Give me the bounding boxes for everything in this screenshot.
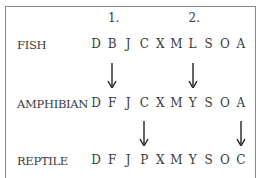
sequence-letter: C: [137, 37, 151, 51]
sequence-letter: J: [121, 37, 135, 51]
sequence-letter: M: [170, 153, 184, 167]
step-number: 2.: [189, 11, 200, 25]
sequence-letter: X: [153, 153, 167, 167]
sequence-letter: M: [170, 37, 184, 51]
sequence-letter: Y: [186, 96, 200, 110]
down-arrow-icon: [188, 63, 198, 88]
sequence-letter: F: [105, 153, 119, 167]
row-label-fish: FISH: [17, 38, 46, 52]
row-label-reptile: REPTILE: [17, 154, 68, 168]
sequence-letter: F: [105, 96, 119, 110]
sequence-letter: D: [89, 153, 103, 167]
row-label-amphibian: AMPHIBIAN: [17, 97, 88, 111]
sequence-letter: P: [137, 153, 151, 167]
sequence-letter: D: [89, 96, 103, 110]
sequence-letter: S: [202, 37, 216, 51]
sequence-letter: X: [153, 37, 167, 51]
sequence-letter: M: [170, 96, 184, 110]
sequence-letter: C: [234, 153, 248, 167]
down-arrow-icon: [107, 63, 117, 88]
step-number: 1.: [108, 11, 119, 25]
sequence-letter: O: [218, 96, 232, 110]
sequence-letter: C: [137, 96, 151, 110]
sequence-letter: J: [121, 153, 135, 167]
sequence-letter: X: [153, 96, 167, 110]
sequence-letter: B: [105, 37, 119, 51]
sequence-letter: O: [218, 37, 232, 51]
sequence-letter: J: [121, 96, 135, 110]
sequence-letter: Y: [186, 153, 200, 167]
down-arrow-icon: [139, 121, 149, 146]
sequence-letter: A: [234, 37, 248, 51]
sequence-letter: S: [202, 96, 216, 110]
sequence-letter: D: [89, 37, 103, 51]
sequence-letter: O: [218, 153, 232, 167]
sequence-letter: A: [234, 96, 248, 110]
down-arrow-icon: [236, 121, 246, 146]
sequence-letter: S: [202, 153, 216, 167]
sequence-letter: L: [186, 37, 200, 51]
